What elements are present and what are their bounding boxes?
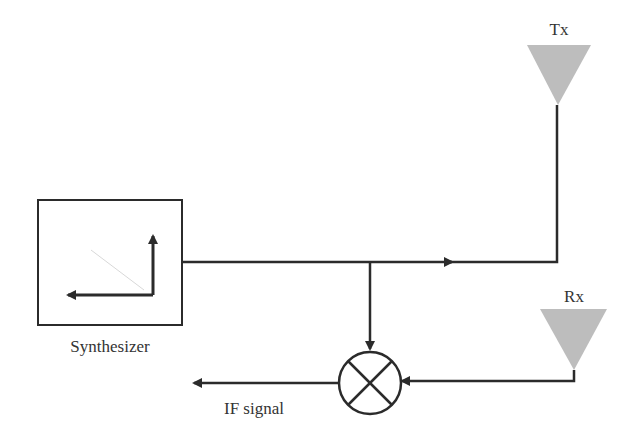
tx-label: Tx [550,20,569,39]
radar-diagram: Synthesizer Tx Rx IF signal [0,0,640,441]
rx-antenna-icon [540,309,607,370]
rx-label: Rx [564,287,584,306]
synthesizer-label: Synthesizer [70,337,150,356]
if-signal-label: IF signal [224,399,284,418]
tx-feed-line [182,105,557,262]
mixer-icon [339,352,401,414]
synthesizer-block [38,200,182,325]
rx-feed-line [402,370,574,381]
tx-antenna-icon [527,45,591,105]
